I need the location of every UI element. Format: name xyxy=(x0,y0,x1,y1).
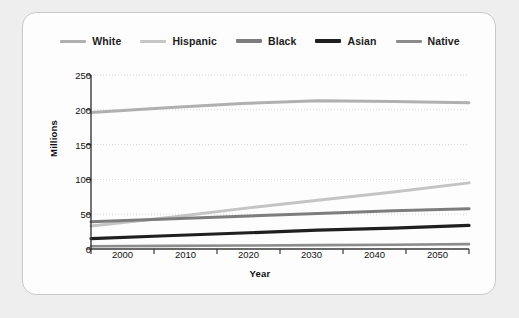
series-line-native xyxy=(91,244,469,246)
y-tick-label-200: 200 xyxy=(61,104,91,115)
x-tick-label-2040: 2040 xyxy=(352,249,398,260)
y-tick-label-100: 100 xyxy=(61,174,91,185)
x-tick-label-2030: 2030 xyxy=(289,249,335,260)
series-line-white xyxy=(91,101,469,113)
y-axis-title: Millions xyxy=(48,89,59,189)
series-line-black xyxy=(91,209,469,222)
x-tick-label-2010: 2010 xyxy=(163,249,209,260)
chart-card: WhiteHispanicBlackAsianNative Millions Y… xyxy=(22,12,496,295)
x-axis-title: Year xyxy=(23,268,497,279)
y-tick-label-250: 250 xyxy=(61,70,91,81)
y-tick-label-150: 150 xyxy=(61,139,91,150)
y-tick-label-50: 50 xyxy=(61,209,91,220)
plot-area-wrapper: Millions Year 250200150100500 2000201020… xyxy=(23,13,497,296)
series-line-asian xyxy=(91,225,469,238)
x-tick-label-2050: 2050 xyxy=(415,249,461,260)
x-axis-tick-labels: 200020102020203020402050 xyxy=(23,249,497,265)
x-tick-label-2000: 2000 xyxy=(100,249,146,260)
x-tick-label-2020: 2020 xyxy=(226,249,272,260)
